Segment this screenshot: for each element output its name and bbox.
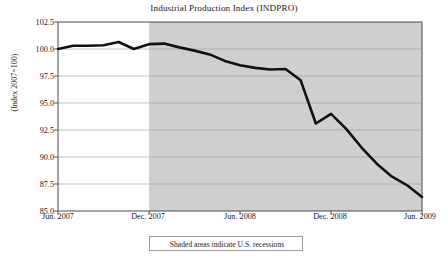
x-tick-label: Jun. 2007	[23, 213, 93, 221]
chart-container: Industrial Production Index (INDPRO) (In…	[0, 0, 448, 269]
x-tick-label: Jun. 2008	[205, 213, 275, 221]
plot-area	[0, 0, 448, 269]
x-tick-label: Dec. 2007	[113, 213, 183, 221]
x-tick-label: Dec. 2008	[295, 213, 365, 221]
recession-legend-box: Shaded areas indicate U.S. recessions	[149, 236, 303, 251]
x-tick-label: Jun. 2009	[385, 213, 448, 221]
recession-legend-text: Shaded areas indicate U.S. recessions	[150, 240, 304, 249]
